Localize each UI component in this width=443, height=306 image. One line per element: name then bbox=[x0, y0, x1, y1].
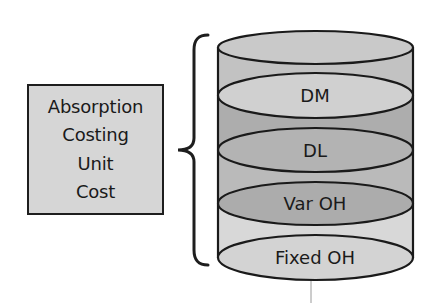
layer-label-var-oh: Var OH bbox=[284, 193, 347, 214]
layer-top bbox=[218, 31, 413, 64]
curly-brace-icon bbox=[178, 35, 208, 265]
layer-var-oh: Var OH bbox=[218, 182, 413, 225]
absorption-costing-diagram: Absorption Costing Unit Cost DM DL bbox=[0, 0, 443, 306]
cylinder-stack-graphic: DM DL Var OH Fixed OH bbox=[0, 0, 443, 306]
layer-label-dm: DM bbox=[300, 85, 329, 106]
layer-label-fixed-oh: Fixed OH bbox=[275, 247, 355, 268]
layer-fixed-oh: Fixed OH bbox=[218, 235, 413, 280]
layer-dm: DM bbox=[218, 73, 413, 118]
layer-label-dl: DL bbox=[303, 140, 327, 161]
layer-dl: DL bbox=[218, 128, 413, 172]
